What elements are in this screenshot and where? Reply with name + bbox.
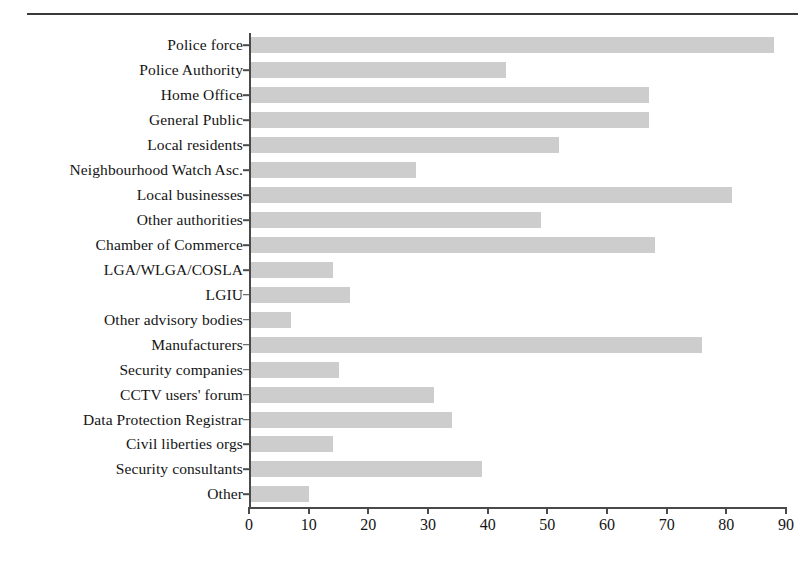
bar: [249, 362, 339, 378]
x-axis-tick-mark: [546, 507, 548, 514]
category-label: Civil liberties orgs: [126, 437, 243, 453]
bar: [249, 337, 702, 353]
category-label: Security companies: [119, 362, 243, 378]
bar: [249, 137, 559, 153]
category-label: Data Protection Registrar: [83, 412, 243, 428]
bar: [249, 486, 309, 502]
x-axis-tick-label: 30: [420, 517, 436, 533]
category-label: General Public: [149, 113, 243, 129]
bar-track: [249, 332, 789, 357]
bar-row: General Public: [0, 108, 811, 133]
bar-row: Neighbourhood Watch Asc.: [0, 158, 811, 183]
x-axis-tick-mark: [308, 507, 310, 514]
bar: [249, 436, 333, 452]
bar: [249, 87, 649, 103]
bar-row: Security consultants: [0, 457, 811, 482]
bar-row: CCTV users' forum: [0, 382, 811, 407]
x-axis-tick-label: 70: [659, 517, 675, 533]
category-label: Other: [207, 487, 243, 503]
bar: [249, 412, 452, 428]
x-axis-tick-label: 0: [245, 517, 253, 533]
bar-track: [249, 183, 789, 208]
bar-row: Data Protection Registrar: [0, 407, 811, 432]
category-label: Other advisory bodies: [104, 312, 243, 328]
x-axis-tick-label: 10: [301, 517, 317, 533]
bar: [249, 212, 541, 228]
bar-row: Manufacturers: [0, 332, 811, 357]
category-label: LGA/WLGA/COSLA: [104, 262, 243, 278]
bar: [249, 312, 291, 328]
bar-row: Home Office: [0, 83, 811, 108]
category-label: LGIU: [206, 287, 243, 303]
x-axis-tick-mark: [666, 507, 668, 514]
bar-track: [249, 357, 789, 382]
bar-track: [249, 282, 789, 307]
bar-row: Other advisory bodies: [0, 307, 811, 332]
x-axis-tick-mark: [248, 507, 250, 514]
bar-row: Local businesses: [0, 183, 811, 208]
bar-track: [249, 108, 789, 133]
bar-track: [249, 58, 789, 83]
bar: [249, 287, 350, 303]
bar-track: [249, 133, 789, 158]
bar-row: Civil liberties orgs: [0, 432, 811, 457]
bar-track: [249, 432, 789, 457]
x-axis-ticks: 0102030405060708090: [0, 0, 811, 57]
bar-track: [249, 457, 789, 482]
bar-row: Other authorities: [0, 208, 811, 233]
bar: [249, 62, 506, 78]
category-label: Home Office: [161, 88, 243, 104]
bar-row: Other: [0, 482, 811, 507]
x-axis-tick-label: 90: [778, 517, 794, 533]
bar-track: [249, 407, 789, 432]
bar: [249, 237, 655, 253]
bar-track: [249, 382, 789, 407]
category-label: CCTV users' forum: [120, 387, 243, 403]
bar-row: Police Authority: [0, 58, 811, 83]
bar-row: Local residents: [0, 133, 811, 158]
bar-chart-plot: Police forcePolice AuthorityHome OfficeG…: [0, 0, 811, 564]
x-axis-tick-label: 60: [599, 517, 615, 533]
bar: [249, 262, 333, 278]
bar-row: LGIU: [0, 282, 811, 307]
bar: [249, 461, 482, 477]
category-label: Local businesses: [137, 187, 243, 203]
bar-track: [249, 257, 789, 282]
category-label: Local residents: [147, 137, 243, 153]
x-axis-tick-label: 20: [360, 517, 376, 533]
bar: [249, 387, 434, 403]
bar: [249, 162, 416, 178]
bar: [249, 187, 732, 203]
category-label: Police Authority: [139, 63, 243, 79]
x-axis-tick-mark: [725, 507, 727, 514]
bar-row: LGA/WLGA/COSLA: [0, 257, 811, 282]
x-axis-tick-label: 50: [539, 517, 555, 533]
bar-rows: Police forcePolice AuthorityHome OfficeG…: [0, 33, 811, 507]
x-axis-tick-mark: [427, 507, 429, 514]
category-label: Neighbourhood Watch Asc.: [70, 162, 244, 178]
x-axis-tick-mark: [367, 507, 369, 514]
figure-container: Police forcePolice AuthorityHome OfficeG…: [0, 0, 811, 564]
x-axis-tick-mark: [487, 507, 489, 514]
category-label: Chamber of Commerce: [96, 237, 243, 253]
bar-track: [249, 482, 789, 507]
bar-track: [249, 83, 789, 108]
bar-track: [249, 158, 789, 183]
category-label: Other authorities: [137, 212, 243, 228]
bar-row: Security companies: [0, 357, 811, 382]
category-label: Manufacturers: [151, 337, 243, 353]
category-label: Security consultants: [116, 462, 243, 478]
y-axis-line: [249, 33, 251, 508]
x-axis-tick-label: 80: [718, 517, 734, 533]
x-axis-tick-label: 40: [480, 517, 496, 533]
bar: [249, 112, 649, 128]
x-axis-line: [249, 507, 786, 509]
bar-track: [249, 307, 789, 332]
x-axis-tick-mark: [606, 507, 608, 514]
bar-track: [249, 233, 789, 258]
bar-track: [249, 208, 789, 233]
bar-row: Chamber of Commerce: [0, 233, 811, 258]
x-axis-tick-mark: [785, 507, 787, 514]
